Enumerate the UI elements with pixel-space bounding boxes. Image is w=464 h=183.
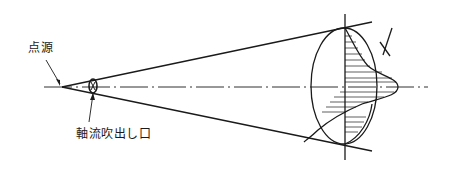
lower-cone-edge xyxy=(62,87,372,151)
upper-tick-cross xyxy=(380,42,390,56)
point-source-arrow-icon xyxy=(56,79,60,86)
velocity-profile xyxy=(304,28,398,142)
point-source-label: 点源 xyxy=(28,38,53,55)
upper-cone-edge xyxy=(62,22,372,87)
upper-tick xyxy=(383,28,392,55)
axial-outlet-label: 軸流吹出し口 xyxy=(76,124,151,141)
jet-diagram xyxy=(0,0,464,183)
cross-section-ellipse xyxy=(311,28,377,144)
